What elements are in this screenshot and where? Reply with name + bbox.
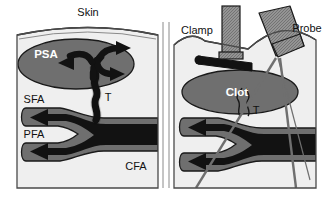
figure-container: Skin PSA SFA PFA CFA T [0, 0, 330, 200]
clamp-foot [219, 52, 243, 59]
left-panel: Skin PSA SFA PFA CFA T [17, 6, 158, 188]
label-skin: Skin [77, 6, 98, 18]
diagram-svg: Skin PSA SFA PFA CFA T [0, 0, 330, 200]
label-probe: Probe [292, 22, 321, 34]
label-tract-left: T [105, 91, 112, 103]
label-clamp: Clamp [181, 24, 213, 36]
label-sfa: SFA [24, 93, 45, 105]
clamp-pad-tip [195, 56, 204, 65]
label-tract-right: T [253, 104, 260, 116]
label-psa: PSA [34, 48, 58, 60]
label-cfa: CFA [125, 160, 147, 172]
label-pfa: PFA [24, 128, 45, 140]
label-clot: Clot [226, 86, 249, 98]
clamp-shaft [222, 6, 240, 58]
